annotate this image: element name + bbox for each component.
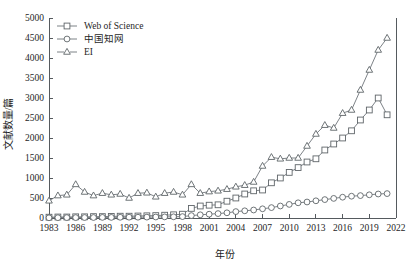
marker-circle [55, 215, 61, 221]
axes [49, 18, 396, 218]
marker-square [313, 156, 319, 162]
marker-circle [153, 214, 159, 220]
legend-label: 中国知网 [84, 33, 124, 44]
marker-square [286, 170, 292, 176]
y-tick-label: 2000 [25, 133, 44, 143]
marker-triangle [206, 188, 213, 194]
marker-circle [286, 202, 292, 208]
marker-circle [224, 210, 230, 216]
x-tick-label: 1986 [66, 223, 85, 233]
marker-triangle [357, 86, 364, 92]
marker-circle [215, 211, 221, 217]
marker-circle [260, 206, 266, 212]
marker-triangle [268, 154, 275, 160]
marker-square [260, 187, 266, 193]
series-line [49, 38, 387, 201]
chart-legend: Web of Science中国知网EI [57, 21, 143, 57]
y-axis-title: 文献数量/篇 [2, 98, 14, 151]
marker-square [251, 188, 257, 194]
y-tick-label: 0 [39, 213, 44, 223]
marker-triangle [170, 188, 177, 194]
axis-spine [49, 18, 396, 218]
marker-circle [46, 215, 52, 221]
marker-triangle [250, 178, 257, 184]
y-tick-label: 3500 [25, 73, 44, 83]
marker-circle [197, 212, 203, 218]
marker-circle [64, 215, 70, 221]
marker-square [188, 206, 194, 212]
marker-triangle [348, 106, 355, 112]
marker-triangle [117, 190, 124, 196]
marker-square [349, 128, 355, 134]
marker-triangle [72, 181, 79, 187]
marker-circle [171, 214, 177, 220]
marker-circle [126, 214, 132, 220]
publication-trend-line-chart: 0500100015002000250030003500400045005000… [0, 0, 418, 267]
marker-square [340, 135, 346, 141]
x-tick-label: 2022 [387, 223, 406, 233]
marker-circle [349, 193, 355, 199]
marker-square [331, 141, 337, 147]
marker-circle [206, 211, 212, 217]
marker-circle [233, 209, 239, 215]
marker-triangle [286, 154, 293, 160]
legend-label: EI [84, 47, 93, 57]
marker-circle [322, 197, 328, 203]
y-tick-label: 2500 [25, 113, 44, 123]
marker-circle [313, 198, 319, 204]
marker-triangle [366, 66, 373, 72]
marker-circle [242, 208, 248, 214]
marker-square [295, 165, 301, 171]
x-tick-label: 2001 [200, 223, 219, 233]
marker-circle [73, 215, 79, 221]
marker-circle [304, 199, 310, 205]
marker-square [375, 95, 381, 101]
data-series [46, 34, 391, 220]
marker-square [358, 117, 364, 123]
marker-circle [340, 194, 346, 200]
x-tick-label: 1998 [173, 223, 192, 233]
legend-entry-2: 中国知网 [57, 33, 124, 44]
marker-circle [99, 215, 105, 221]
x-tick-label: 1995 [146, 223, 165, 233]
marker-triangle [55, 192, 62, 198]
x-tick-label: 1989 [93, 223, 112, 233]
marker-triangle [188, 181, 195, 187]
x-tick-label: 2010 [280, 223, 299, 233]
y-tick-label: 4000 [25, 53, 44, 63]
x-tick-label: 2016 [333, 223, 352, 233]
marker-circle [384, 191, 390, 197]
marker-square [224, 198, 230, 204]
marker-circle [366, 192, 372, 198]
marker-triangle [81, 188, 88, 194]
marker-circle [331, 196, 337, 202]
x-tick-label: 2004 [226, 223, 245, 233]
marker-circle [269, 205, 275, 211]
marker-square [384, 112, 390, 118]
marker-circle [251, 207, 257, 213]
marker-circle [117, 214, 123, 220]
y-tick-label: 4500 [25, 33, 44, 43]
marker-square [304, 159, 310, 165]
marker-circle [82, 215, 88, 221]
x-tick-label: 2013 [306, 223, 325, 233]
marker-square [269, 180, 275, 186]
x-tick-label: 2007 [253, 223, 272, 233]
marker-square [322, 147, 328, 153]
marker-triangle [64, 48, 71, 54]
x-axis-title: 年份 [215, 248, 235, 260]
marker-triangle [321, 122, 328, 128]
y-tick-label: 1500 [25, 153, 44, 163]
marker-triangle [144, 189, 151, 195]
marker-square [277, 175, 283, 181]
y-tick-label: 3000 [25, 93, 44, 103]
y-tick-label: 1000 [25, 173, 44, 183]
marker-circle [162, 214, 168, 220]
marker-circle [358, 193, 364, 199]
marker-circle [180, 214, 186, 220]
marker-square [366, 107, 372, 113]
marker-square [64, 23, 70, 29]
marker-circle [188, 213, 194, 219]
marker-square [206, 202, 212, 208]
marker-triangle [99, 190, 106, 196]
